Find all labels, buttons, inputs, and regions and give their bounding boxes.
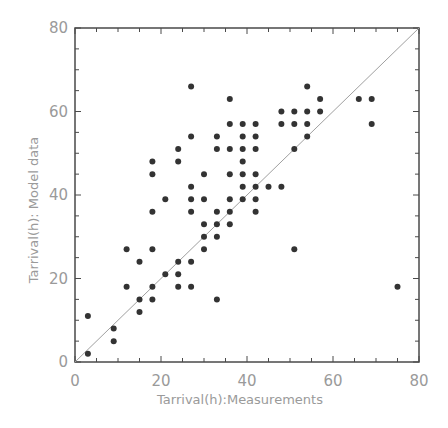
data-point	[124, 246, 130, 252]
data-point	[240, 184, 246, 190]
data-point	[369, 96, 375, 102]
data-point	[85, 351, 91, 357]
data-point	[214, 209, 220, 215]
data-point	[149, 171, 155, 177]
data-point	[291, 109, 297, 115]
data-point	[188, 259, 194, 265]
data-point	[137, 309, 143, 315]
y-tick-label: 60	[49, 103, 68, 121]
data-point	[111, 326, 117, 332]
data-point	[162, 196, 168, 202]
data-point	[369, 121, 375, 127]
y-tick-label: 80	[49, 19, 68, 37]
data-point	[201, 171, 207, 177]
data-point	[266, 184, 272, 190]
data-points	[85, 83, 401, 356]
data-point	[356, 96, 362, 102]
data-point	[317, 96, 323, 102]
data-point	[137, 296, 143, 302]
data-point	[240, 146, 246, 152]
y-tick-labels: 020406080	[49, 19, 68, 371]
data-point	[175, 284, 181, 290]
x-tick-label: 0	[70, 372, 80, 390]
one-to-one-line	[75, 28, 419, 362]
data-point	[278, 121, 284, 127]
data-point	[291, 121, 297, 127]
data-point	[188, 284, 194, 290]
data-point	[175, 259, 181, 265]
data-point	[111, 338, 117, 344]
data-point	[227, 121, 233, 127]
data-point	[395, 284, 401, 290]
data-point	[149, 209, 155, 215]
data-point	[201, 221, 207, 227]
data-point	[188, 196, 194, 202]
data-point	[214, 146, 220, 152]
data-point	[175, 159, 181, 165]
data-point	[240, 121, 246, 127]
data-point	[253, 196, 259, 202]
data-point	[214, 134, 220, 140]
data-point	[253, 209, 259, 215]
data-point	[240, 134, 246, 140]
data-point	[201, 234, 207, 240]
data-point	[149, 246, 155, 252]
scatter-chart: 020406080 020406080 Tarrival(h):Measurem…	[0, 0, 448, 428]
data-point	[240, 171, 246, 177]
data-point	[175, 146, 181, 152]
data-point	[304, 121, 310, 127]
data-point	[227, 209, 233, 215]
data-point	[201, 196, 207, 202]
data-point	[253, 134, 259, 140]
data-point	[188, 184, 194, 190]
data-point	[214, 234, 220, 240]
data-point	[304, 109, 310, 115]
data-point	[188, 209, 194, 215]
data-point	[188, 134, 194, 140]
x-tick-label: 20	[151, 372, 170, 390]
data-point	[227, 221, 233, 227]
data-point	[304, 83, 310, 89]
data-point	[214, 221, 220, 227]
data-point	[227, 171, 233, 177]
data-point	[227, 196, 233, 202]
data-point	[149, 159, 155, 165]
x-tick-label: 40	[237, 372, 256, 390]
data-point	[240, 159, 246, 165]
data-point	[278, 184, 284, 190]
data-point	[149, 284, 155, 290]
data-point	[137, 259, 143, 265]
x-tick-label: 80	[409, 372, 428, 390]
x-tick-label: 60	[323, 372, 342, 390]
data-point	[201, 246, 207, 252]
y-axis-label: Tarrival(h): Model data	[26, 137, 41, 284]
data-point	[291, 246, 297, 252]
y-tick-label: 20	[49, 270, 68, 288]
x-tick-labels: 020406080	[70, 372, 428, 390]
data-point	[304, 134, 310, 140]
y-tick-label: 0	[58, 353, 68, 371]
data-point	[253, 184, 259, 190]
data-point	[278, 109, 284, 115]
data-point	[124, 284, 130, 290]
data-point	[227, 96, 233, 102]
x-axis-label: Tarrival(h):Measurements	[156, 392, 323, 407]
data-point	[149, 296, 155, 302]
data-point	[162, 271, 168, 277]
y-tick-label: 40	[49, 186, 68, 204]
data-point	[188, 83, 194, 89]
data-point	[253, 171, 259, 177]
data-point	[240, 196, 246, 202]
data-point	[175, 271, 181, 277]
data-point	[253, 146, 259, 152]
data-point	[253, 121, 259, 127]
data-point	[85, 313, 91, 319]
data-point	[291, 146, 297, 152]
data-point	[317, 109, 323, 115]
data-point	[214, 296, 220, 302]
data-point	[227, 146, 233, 152]
